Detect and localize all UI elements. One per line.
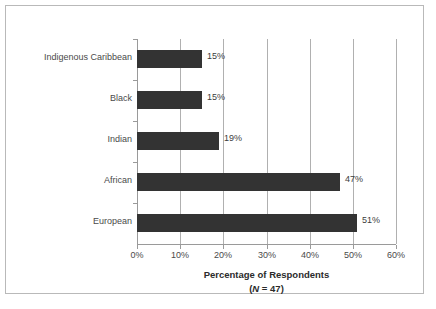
category-label-row: Indian [9, 121, 132, 162]
chart-figure: 51%47%19%15%15% EuropeanAfricanIndianBla… [0, 0, 436, 309]
bar-row: 51% [137, 203, 396, 244]
bar-row: 15% [137, 39, 396, 80]
x-axis-tick [223, 245, 224, 249]
category-label: Black [12, 93, 132, 104]
x-axis-tick-label: 40% [290, 250, 330, 261]
x-axis-sample-size: (N = 47) [137, 282, 396, 295]
category-label: African [12, 175, 132, 186]
bar [137, 50, 202, 68]
bar [137, 91, 202, 109]
bar-row: 15% [137, 80, 396, 121]
x-axis-tick-label: 20% [203, 250, 243, 261]
bar-value-label: 51% [362, 215, 380, 226]
x-axis-tick [180, 245, 181, 249]
x-axis-tick-label: 0% [117, 250, 157, 261]
category-label-row: Black [9, 80, 132, 121]
x-axis-title: Percentage of Respondents [137, 268, 396, 281]
x-axis-tick-label: 60% [376, 250, 416, 261]
bar-value-label: 47% [345, 174, 363, 185]
category-label: Indian [12, 134, 132, 145]
x-axis-tick [353, 245, 354, 249]
gridline [396, 39, 397, 244]
x-axis-tick [396, 245, 397, 249]
bar-value-label: 15% [207, 92, 225, 103]
x-axis-tick [267, 245, 268, 249]
sample-size-suffix: = 47) [259, 283, 284, 294]
figure-border: 51%47%19%15%15% EuropeanAfricanIndianBla… [5, 5, 424, 294]
bar [137, 173, 340, 191]
x-axis-tick [310, 245, 311, 249]
category-label: European [12, 216, 132, 227]
category-label-row: Indigenous Caribbean [9, 39, 132, 80]
category-label-row: European [9, 203, 132, 244]
bar-row: 47% [137, 162, 396, 203]
bar-value-label: 15% [207, 51, 225, 62]
x-axis-tick-label: 30% [247, 250, 287, 261]
x-axis-tick-label: 10% [160, 250, 200, 261]
category-label: Indigenous Caribbean [12, 52, 132, 63]
x-axis-tick-label: 50% [333, 250, 373, 261]
bar [137, 214, 357, 232]
category-label-row: African [9, 162, 132, 203]
x-axis-tick [137, 245, 138, 249]
bar-value-label: 19% [224, 133, 242, 144]
bar [137, 132, 219, 150]
bar-row: 19% [137, 121, 396, 162]
